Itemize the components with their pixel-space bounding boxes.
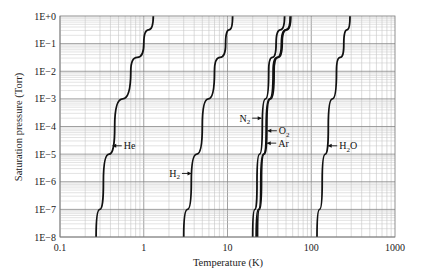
y-tick-label: 1E−5 [34,149,56,160]
y-tick-label: 1E−4 [34,121,56,132]
x-tick-labels: 0.11101001000 [54,242,405,253]
y-tick-label: 1E−3 [34,93,56,104]
y-tick-label: 1E−6 [34,176,56,187]
y-axis-label: Saturation pressure (Torr) [13,72,25,181]
label-text: He [124,140,136,151]
y-tick-label: 1E−1 [34,38,56,49]
y-tick-label: 1E−8 [34,232,56,243]
vapor-pressure-chart: 1E+01E−11E−21E−31E−41E−51E−61E−71E−8 0.1… [0,0,423,279]
x-tick-label: 0.1 [54,242,67,253]
x-tick-label: 10 [223,242,233,253]
x-tick-label: 100 [304,242,319,253]
x-axis-label: Temperature (K) [193,257,264,269]
label-text: Ar [278,138,289,149]
y-tick-label: 1E−7 [34,204,56,215]
y-tick-label: 1E−2 [34,66,56,77]
y-tick-labels: 1E+01E−11E−21E−31E−41E−51E−61E−71E−8 [34,11,56,243]
x-tick-label: 1 [141,242,146,253]
y-tick-label: 1E+0 [34,11,56,22]
x-tick-label: 1000 [385,242,405,253]
